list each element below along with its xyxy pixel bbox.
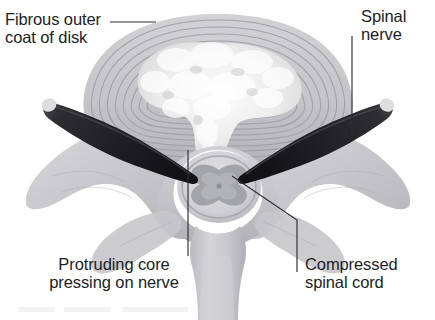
- label-protruding-core: Protruding core pressing on nerve: [26, 255, 202, 292]
- label-fibrous-outer-coat: Fibrous outer coat of disk: [5, 10, 101, 47]
- label-spinal-nerve: Spinal nerve: [361, 7, 406, 44]
- cropped-caption-artifact: [18, 307, 188, 312]
- herniated-disk-illustration: Fibrous outer coat of disk Spinal nerve …: [0, 0, 435, 320]
- label-compressed-spinal-cord: Compressed spinal cord: [305, 255, 398, 292]
